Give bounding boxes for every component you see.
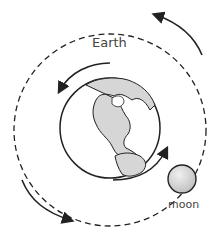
moon-orbit-arrow-bottom xyxy=(22,180,70,220)
earth-label: Earth xyxy=(92,35,127,50)
moon xyxy=(168,165,196,193)
moon-orbit-arrow-top xyxy=(156,15,202,55)
moon-label: moon xyxy=(168,198,199,211)
earth-globe xyxy=(60,78,160,178)
